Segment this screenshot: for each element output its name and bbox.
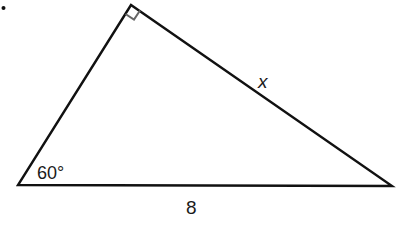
bullet-dot bbox=[2, 6, 6, 10]
angle-60-label: 60° bbox=[37, 163, 64, 183]
side-x-label: x bbox=[257, 71, 269, 92]
right-triangle-diagram: x 60° 8 bbox=[0, 0, 399, 230]
triangle bbox=[18, 5, 392, 186]
hypotenuse-length-label: 8 bbox=[186, 197, 197, 218]
